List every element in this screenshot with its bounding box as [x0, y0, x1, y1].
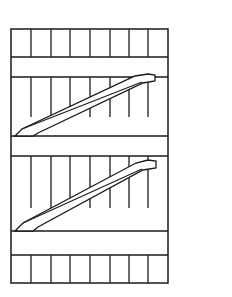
line-drawing-canvas: Escalator elevation line drawing Rectang…	[0, 0, 232, 297]
escalator-elevation-figure: Escalator elevation line drawing Rectang…	[0, 0, 232, 297]
